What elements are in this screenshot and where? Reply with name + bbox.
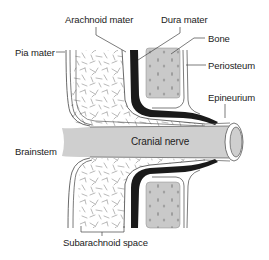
label-subarachnoid-space: Subarachnoid space [63, 237, 148, 248]
nerve-end-inner [230, 127, 242, 157]
label-brainstem: Brainstem [15, 146, 57, 157]
cranial-nerve-diagram: Arachnoid mater Dura mater Bone Perioste… [0, 0, 269, 260]
leader-arachnoid [96, 27, 126, 52]
label-dura-mater: Dura mater [161, 14, 208, 25]
label-cranial-nerve: Cranial nerve [131, 136, 189, 147]
label-epineurium: Epineurium [208, 92, 255, 103]
label-bone: Bone [208, 33, 230, 44]
bone-lower [146, 182, 180, 228]
label-pia-mater: Pia mater [15, 47, 55, 58]
bone-upper [146, 48, 180, 98]
label-periosteum: Periosteum [208, 60, 255, 71]
label-arachnoid-mater: Arachnoid mater [65, 14, 133, 25]
